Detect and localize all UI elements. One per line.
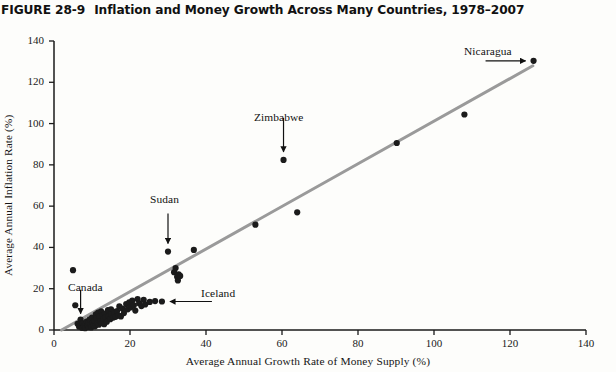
data-point bbox=[159, 298, 165, 304]
annotation-label-iceland: Iceland bbox=[201, 287, 235, 299]
data-point bbox=[191, 247, 197, 253]
y-tick-label: 40 bbox=[14, 240, 44, 252]
data-point bbox=[72, 302, 78, 308]
x-axis-title: Average Annual Growth Rate of Money Supp… bbox=[0, 355, 616, 367]
x-tick-label: 40 bbox=[189, 337, 223, 349]
plot-area: 020406080100120140020406080100120140Cana… bbox=[46, 33, 592, 336]
data-point bbox=[152, 298, 158, 304]
y-tick-label: 100 bbox=[14, 117, 44, 129]
data-point bbox=[147, 299, 153, 305]
x-tick-label: 80 bbox=[341, 337, 375, 349]
figure-container: FIGURE 28-9 Inflation and Money Growth A… bbox=[0, 0, 616, 372]
data-point bbox=[252, 222, 258, 228]
annotation-label-canada: Canada bbox=[68, 281, 103, 293]
x-tick-label: 20 bbox=[113, 337, 147, 349]
data-point bbox=[461, 111, 467, 117]
data-point bbox=[530, 58, 536, 64]
data-point bbox=[165, 248, 171, 254]
data-point bbox=[280, 157, 286, 163]
data-point bbox=[294, 209, 300, 215]
annotation-label-sudan: Sudan bbox=[150, 193, 179, 205]
y-tick-label: 140 bbox=[14, 34, 44, 46]
y-tick-label: 60 bbox=[14, 199, 44, 211]
annotation-label-nicaragua: Nicaragua bbox=[464, 45, 512, 57]
scatter-plot-svg bbox=[46, 33, 592, 336]
y-tick-label: 80 bbox=[14, 158, 44, 170]
data-point bbox=[70, 267, 76, 273]
y-tick-label: 20 bbox=[14, 282, 44, 294]
data-point bbox=[394, 140, 400, 146]
x-tick-label: 120 bbox=[493, 337, 527, 349]
x-tick-label: 140 bbox=[569, 337, 603, 349]
x-tick-label: 0 bbox=[37, 337, 71, 349]
x-tick-label: 100 bbox=[417, 337, 451, 349]
x-tick-label: 60 bbox=[265, 337, 299, 349]
annotation-label-zimbabwe: Zimbabwe bbox=[254, 111, 304, 123]
data-point bbox=[131, 302, 137, 308]
data-point bbox=[177, 273, 183, 279]
data-point bbox=[173, 265, 179, 271]
figure-number: FIGURE 28-9 bbox=[1, 3, 85, 17]
data-point bbox=[132, 307, 138, 313]
y-tick-label: 120 bbox=[14, 75, 44, 87]
figure-caption: Inflation and Money Growth Across Many C… bbox=[94, 3, 524, 17]
y-tick-label: 0 bbox=[14, 323, 44, 335]
figure-title-bar: FIGURE 28-9 Inflation and Money Growth A… bbox=[0, 0, 616, 20]
